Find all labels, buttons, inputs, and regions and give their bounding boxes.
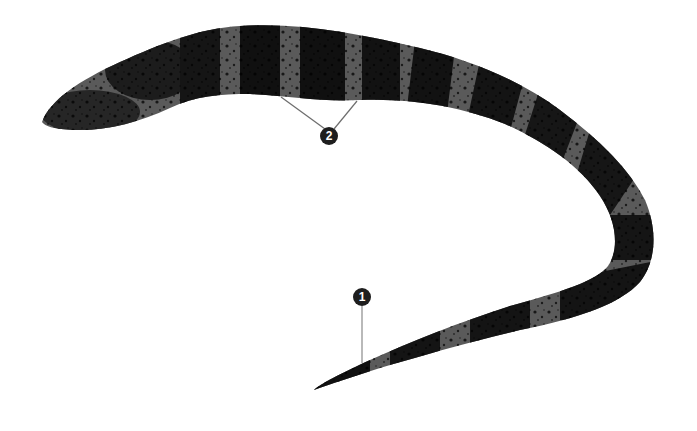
eel-figure: 2 1 (0, 0, 697, 431)
eel-body (0, 0, 697, 431)
eel-illustration (0, 0, 697, 431)
callout-2-leader-right (334, 101, 357, 129)
callout-badge-2: 2 (320, 127, 338, 145)
callout-badge-1: 1 (353, 288, 371, 306)
callout-2-leader-left (281, 97, 325, 129)
